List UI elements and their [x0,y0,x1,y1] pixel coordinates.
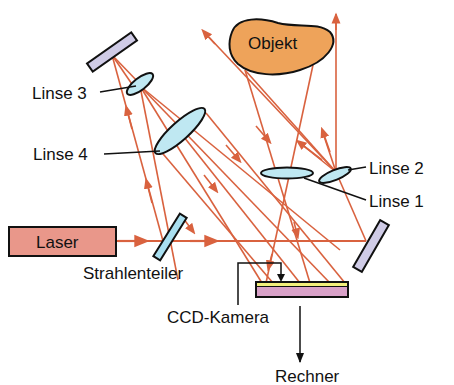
laser-label: Laser [36,233,79,252]
ray-arrow [205,33,215,44]
object-label: Objekt [248,34,297,53]
ccd-camera-label: CCD-Kamera [167,308,270,327]
ray-arrow [204,175,215,189]
lens-1-label: Linse 1 [369,192,424,211]
lens-4-leader [104,151,160,154]
object: Objekt [230,19,334,74]
mirror-right [353,220,389,272]
lens-3: Linse 3 [32,69,156,103]
ray [140,86,340,250]
lens-2-label: Linse 2 [369,159,424,178]
lens-3-label: Linse 3 [32,84,87,103]
lens-3-shape [124,69,157,98]
laser: Laser [9,227,116,256]
lens-4-label: Linse 4 [33,145,88,164]
ray-arrow [226,145,238,159]
ccd-leader-arrowhead [277,274,285,282]
computer-label: Rechner [275,367,340,385]
ray-arrow [147,183,152,203]
object-beam-up [336,172,366,241]
ccd-sensor [257,283,347,286]
lens-4: Linse 4 [33,102,211,164]
lens-1-shape [261,168,313,179]
holography-setup-diagram: Laser Strahlenteiler Linse 3 Linse 4 Obj… [0,0,454,385]
mirror-top-left [87,32,137,71]
beam-splitter-label: Strahlenteiler [83,264,184,283]
ray-arrow [127,110,132,129]
ray-arrow [323,132,330,152]
beam-splitter-plate [153,214,186,261]
computer: Rechner [275,306,340,385]
